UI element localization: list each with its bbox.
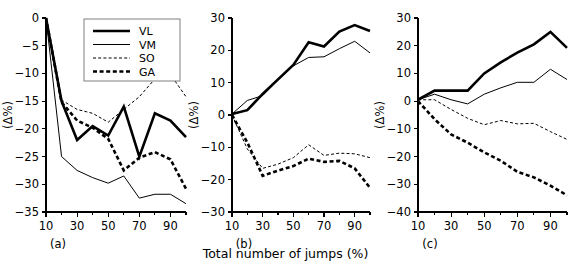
chart-panel-c: 3020100−10−20−30−401030507090(Δ%)(c) [372, 0, 571, 246]
y-tick-label: −20 [15, 122, 39, 136]
y-tick-label: −30 [15, 177, 39, 191]
series-line-so [418, 100, 567, 140]
x-axis-title: Total number of jumps (%) [0, 243, 571, 262]
y-tick-label: −5 [22, 39, 39, 53]
x-tick-label: 10 [39, 219, 54, 233]
x-tick-label: 70 [132, 219, 147, 233]
chart-panel-b: 3020100−10−20−301030507090(Δ%)(b) [188, 0, 374, 246]
y-tick-label: 20 [210, 43, 225, 57]
y-tick-label: −10 [201, 140, 225, 154]
y-tick-label: 0 [32, 11, 39, 25]
x-tick-label: 50 [286, 219, 301, 233]
y-axis-title: (Δ%) [373, 101, 387, 129]
legend-label-so: SO [139, 52, 155, 65]
y-tick-label: 20 [396, 39, 411, 53]
y-tick-label: −25 [15, 150, 39, 164]
y-tick-label: −10 [15, 66, 39, 80]
x-tick-label: 90 [163, 219, 178, 233]
panel-b-plot: 3020100−10−20−301030507090(Δ%)(b) [188, 0, 374, 246]
x-tick-label: 30 [444, 219, 459, 233]
legend-label-vm: VM [139, 39, 156, 52]
series-line-ga [418, 101, 567, 195]
y-tick-label: 10 [396, 66, 411, 80]
legend-label-ga: GA [139, 66, 156, 79]
y-tick-label: −20 [201, 173, 225, 187]
x-axis-title-text: Total number of jumps (%) [203, 246, 369, 261]
y-tick-label: 30 [210, 11, 225, 25]
x-tick-label: 10 [225, 219, 240, 233]
y-tick-label: 0 [218, 108, 225, 122]
legend-label-vl: VL [139, 25, 154, 38]
y-tick-label: −30 [387, 177, 411, 191]
y-tick-label: 30 [396, 11, 411, 25]
chart-panel-a: 0−5−10−15−20−25−30−351030507090(Δ%)(a)VL… [0, 0, 190, 246]
y-tick-label: −15 [15, 94, 39, 108]
figure-three-panel-line-charts: 0−5−10−15−20−25−30−351030507090(Δ%)(a)VL… [0, 0, 571, 268]
y-tick-label: −35 [15, 205, 39, 219]
y-axis-title: (Δ%) [187, 101, 201, 129]
y-tick-label: 10 [210, 76, 225, 90]
x-tick-label: 70 [317, 219, 332, 233]
y-tick-label: −20 [387, 150, 411, 164]
y-tick-label: 0 [404, 94, 411, 108]
series-line-vl [418, 32, 567, 100]
legend-box [84, 19, 180, 81]
x-tick-label: 90 [543, 219, 558, 233]
series-line-vm [418, 69, 567, 104]
x-tick-label: 50 [101, 219, 116, 233]
series-line-so [232, 115, 370, 168]
x-tick-label: 30 [70, 219, 85, 233]
y-tick-label: −10 [387, 122, 411, 136]
y-tick-label: −30 [201, 205, 225, 219]
y-tick-label: −40 [387, 205, 411, 219]
x-tick-label: 30 [255, 219, 270, 233]
x-tick-label: 90 [347, 219, 362, 233]
x-tick-label: 10 [411, 219, 426, 233]
panel-c-plot: 3020100−10−20−30−401030507090(Δ%)(c) [372, 0, 571, 246]
series-line-vl [232, 25, 370, 114]
panel-a-plot: 0−5−10−15−20−25−30−351030507090(Δ%)(a)VL… [0, 0, 190, 246]
x-tick-label: 70 [510, 219, 525, 233]
y-axis-title: (Δ%) [1, 101, 15, 129]
x-tick-label: 50 [477, 219, 492, 233]
